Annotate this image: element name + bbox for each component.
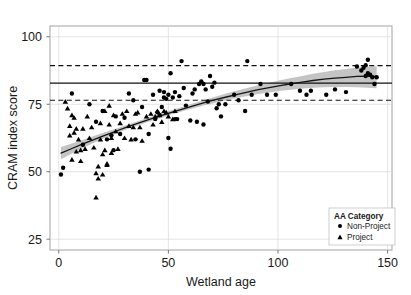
data-point-circle xyxy=(182,86,186,90)
data-point-circle xyxy=(146,167,150,171)
xtick-label-100: 100 xyxy=(268,256,289,270)
data-point-circle xyxy=(249,93,253,97)
ytick-label-50: 50 xyxy=(28,165,42,179)
data-point-circle xyxy=(274,93,278,97)
data-point-circle xyxy=(59,172,63,176)
data-point-circle xyxy=(195,120,199,124)
ytick-label-25: 25 xyxy=(28,233,42,247)
data-point-circle xyxy=(144,78,148,82)
plot-area: 050100150Wetland age255075100CRAM index … xyxy=(0,0,411,295)
data-point-circle xyxy=(309,89,313,93)
data-point-circle xyxy=(245,59,249,63)
ytick-label-75: 75 xyxy=(28,98,42,112)
data-point-circle xyxy=(355,64,359,68)
x-axis-title: Wetland age xyxy=(186,275,256,289)
data-point-circle xyxy=(344,90,348,94)
data-point-circle xyxy=(236,98,240,102)
data-point-circle xyxy=(304,93,308,97)
data-point-circle xyxy=(201,82,205,86)
data-point-circle xyxy=(166,93,170,97)
data-point-circle xyxy=(127,91,131,95)
legend-label-non-project: Non-Project xyxy=(347,222,391,231)
data-point-circle xyxy=(210,85,214,89)
data-point-circle xyxy=(232,93,236,97)
data-point-circle xyxy=(131,98,135,102)
data-point-circle xyxy=(366,58,370,62)
legend-marker-circle xyxy=(338,224,342,228)
y-axis: 255075100CRAM index score xyxy=(6,30,50,246)
x-axis: 050100150Wetland age xyxy=(55,250,398,289)
data-point-circle xyxy=(208,74,212,78)
data-point-circle xyxy=(157,89,161,93)
data-point-circle xyxy=(61,165,65,169)
data-point-circle xyxy=(70,91,74,95)
data-point-circle xyxy=(118,132,122,136)
data-point-circle xyxy=(370,75,374,79)
data-point-circle xyxy=(171,95,175,99)
data-point-circle xyxy=(146,132,150,136)
xtick-label-150: 150 xyxy=(377,256,398,270)
data-point-circle xyxy=(122,116,126,120)
data-point-circle xyxy=(206,99,210,103)
data-point-circle xyxy=(223,102,227,106)
data-point-circle xyxy=(289,82,293,86)
data-point-circle xyxy=(265,93,269,97)
data-point-circle xyxy=(374,75,378,79)
data-point-circle xyxy=(201,122,205,126)
data-point-circle xyxy=(363,63,367,67)
data-point-circle xyxy=(333,87,337,91)
data-point-circle xyxy=(190,91,194,95)
data-point-circle xyxy=(81,143,85,147)
data-point-circle xyxy=(94,120,98,124)
legend-label-project: Project xyxy=(347,233,373,242)
data-point-circle xyxy=(184,103,188,107)
data-point-circle xyxy=(217,102,221,106)
data-point-circle xyxy=(192,87,196,91)
data-point-circle xyxy=(162,90,166,94)
data-point-circle xyxy=(87,102,91,106)
data-point-circle xyxy=(298,89,302,93)
data-point-circle xyxy=(166,136,170,140)
legend-title: AA Category xyxy=(334,212,384,221)
ytick-label-100: 100 xyxy=(21,30,42,44)
cram-index-scatter-chart: 050100150Wetland age255075100CRAM index … xyxy=(0,0,411,295)
data-point-circle xyxy=(258,82,262,86)
data-point-circle xyxy=(105,137,109,141)
data-point-circle xyxy=(203,87,207,91)
y-axis-title: CRAM index score xyxy=(6,86,20,190)
data-point-circle xyxy=(177,94,181,98)
data-point-circle xyxy=(138,170,142,174)
data-point-circle xyxy=(219,114,223,118)
legend: AA CategoryNon-ProjectProject xyxy=(329,208,395,245)
data-point-circle xyxy=(151,93,155,97)
data-point-circle xyxy=(324,93,328,97)
xtick-label-0: 0 xyxy=(55,256,62,270)
data-point-circle xyxy=(188,118,192,122)
data-point-circle xyxy=(175,117,179,121)
data-point-circle xyxy=(164,97,168,101)
data-point-circle xyxy=(160,105,164,109)
data-point-circle xyxy=(133,137,137,141)
data-point-circle xyxy=(212,80,216,84)
data-point-circle xyxy=(168,147,172,151)
data-point-circle xyxy=(168,71,172,75)
data-point-circle xyxy=(140,105,144,109)
xtick-label-50: 50 xyxy=(161,256,175,270)
data-point-circle xyxy=(372,82,376,86)
data-point-circle xyxy=(243,109,247,113)
data-point-circle xyxy=(179,59,183,63)
data-point-circle xyxy=(173,90,177,94)
data-point-circle xyxy=(214,106,218,110)
